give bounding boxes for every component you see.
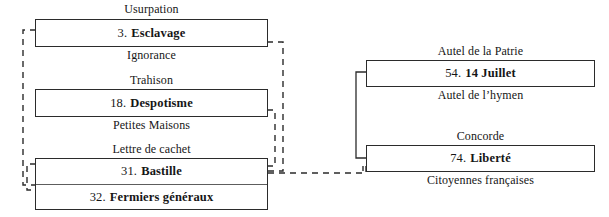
- caption-above-despotisme: Trahison: [35, 73, 268, 88]
- node-box-14-juillet[interactable]: 54. 14 Juillet: [366, 60, 595, 87]
- node-label-fermiers-generaux: Fermiers généraux: [110, 190, 214, 205]
- caption-below-14-juillet: Autel de l’hymen: [366, 88, 595, 103]
- node-row-fermiers-generaux: 32. Fermiers généraux: [36, 184, 267, 209]
- node-number-despotisme: 18.: [110, 96, 126, 111]
- node-number-esclavage: 3.: [118, 26, 128, 41]
- left-group-right-inner-dashed-bracket: [267, 110, 275, 166]
- node-row-bastille: 31. Bastille: [36, 159, 267, 184]
- caption-above-14-juillet: Autel de la Patrie: [366, 44, 595, 59]
- caption-below-despotisme: Petites Maisons: [35, 118, 268, 133]
- node-number-liberte: 74.: [450, 151, 466, 166]
- node-label-bastille: Bastille: [141, 164, 182, 179]
- node-label-despotisme: Despotisme: [130, 96, 193, 111]
- node-label-liberte: Liberté: [470, 151, 511, 166]
- caption-above-esclavage: Usurpation: [35, 2, 268, 17]
- node-number-14-juillet: 54.: [445, 66, 461, 81]
- caption-above-bastille: Lettre de cachet: [35, 142, 268, 157]
- node-box-liberte[interactable]: 74. Liberté: [366, 145, 595, 172]
- node-row-14-juillet: 54. 14 Juillet: [367, 61, 594, 86]
- node-label-esclavage: Esclavage: [131, 26, 185, 41]
- node-row-liberte: 74. Liberté: [367, 146, 594, 171]
- node-label-14-juillet: 14 Juillet: [465, 66, 515, 81]
- caption-below-esclavage: Ignorance: [35, 48, 268, 63]
- node-box-despotisme[interactable]: 18. Despotisme: [35, 89, 268, 117]
- caption-below-liberte: Citoyennes françaises: [366, 173, 595, 188]
- node-box-bastille[interactable]: 31. Bastille 32. Fermiers généraux: [35, 158, 268, 210]
- diagram-canvas: Usurpation 3. Esclavage Ignorance Trahis…: [0, 0, 609, 217]
- node-number-fermiers-generaux: 32.: [90, 190, 106, 205]
- node-number-bastille: 31.: [121, 164, 137, 179]
- node-row-despotisme: 18. Despotisme: [36, 90, 267, 116]
- caption-above-liberte: Concorde: [366, 129, 595, 144]
- node-row-esclavage: 3. Esclavage: [36, 20, 267, 46]
- node-box-esclavage[interactable]: 3. Esclavage: [35, 19, 268, 47]
